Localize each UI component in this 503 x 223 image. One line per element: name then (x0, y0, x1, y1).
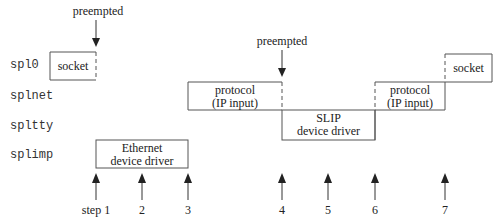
step-label-5: 5 (318, 203, 338, 217)
socket-box-2-label: socket (445, 61, 492, 75)
preempted-label-1: preempted (68, 4, 128, 18)
preempted-arrow-2 (278, 50, 286, 77)
step-label-6: 6 (365, 203, 385, 217)
protocol-box-1-line2: (IP input) (188, 96, 282, 110)
level-label-splnet: splnet (10, 89, 53, 103)
step-label-3: 3 (178, 203, 198, 217)
step-arrows (92, 173, 449, 200)
step-label-1: step 1 (76, 203, 116, 217)
slip-box-line1: SLIP (282, 111, 375, 125)
protocol-box-1-line1: protocol (188, 83, 282, 97)
level-label-spl0: spl0 (10, 58, 39, 72)
protocol-box-2-line1: protocol (375, 83, 445, 97)
step-label-2: 2 (132, 203, 152, 217)
level-label-spltty: spltty (10, 119, 53, 133)
preempted-arrow-1 (92, 20, 100, 47)
step-label-7: 7 (435, 203, 455, 217)
step-label-4: 4 (272, 203, 292, 217)
preempted-label-2: preempted (252, 34, 312, 48)
protocol-box-2-line2: (IP input) (375, 96, 445, 110)
socket-box-1-label: socket (50, 59, 96, 73)
ethernet-box-line1: Ethernet (96, 141, 188, 155)
ethernet-box-line2: device driver (96, 154, 188, 168)
slip-box-line2: device driver (282, 124, 375, 138)
priority-timeline-diagram: spl0 splnet spltty splimp preempted pree… (0, 0, 503, 223)
level-label-splimp: splimp (10, 148, 53, 162)
